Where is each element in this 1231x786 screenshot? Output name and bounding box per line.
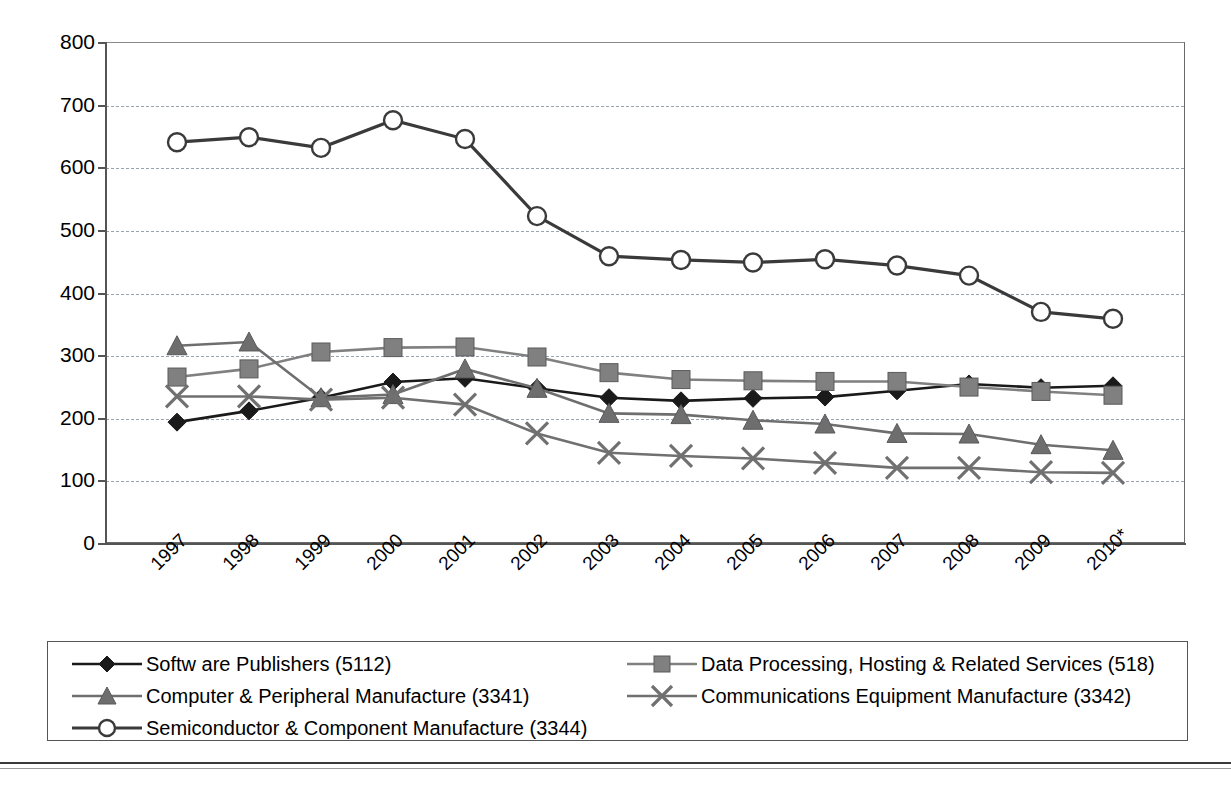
y-axis-tick-label: 100 [20, 469, 95, 490]
chart-page: 0100200300400500600700800 19971998199920… [0, 0, 1231, 786]
legend-item[interactable]: Softw are Publishers (5112) [68, 648, 587, 680]
legend-item[interactable]: Communications Equipment Manufacture (33… [623, 680, 1155, 712]
y-axis-tick [98, 355, 106, 357]
gridlines [106, 43, 1184, 542]
legend-column: Data Processing, Hosting & Related Servi… [623, 648, 1155, 712]
y-axis-tick-label: 0 [20, 532, 95, 553]
y-axis-tick [98, 418, 106, 420]
y-axis-tick-label: 600 [20, 156, 95, 177]
gridline [106, 356, 1184, 357]
gridline [106, 481, 1184, 482]
chart-legend: Softw are Publishers (5112)Computer & Pe… [47, 641, 1188, 741]
y-axis-tick [98, 105, 106, 107]
gridline [106, 106, 1184, 107]
y-axis-tick-label: 400 [20, 282, 95, 303]
legend-diamond-icon [68, 650, 146, 678]
gridline [106, 294, 1184, 295]
gridline [106, 419, 1184, 420]
legend-item-label: Communications Equipment Manufacture (33… [701, 686, 1131, 706]
y-axis-tick-label: 500 [20, 219, 95, 240]
legend-triangle-icon [68, 682, 146, 710]
legend-square-icon [623, 650, 701, 678]
page-divider-secondary [0, 768, 1231, 769]
legend-item[interactable]: Semiconductor & Component Manufacture (3… [68, 712, 587, 744]
legend-item-label: Softw are Publishers (5112) [146, 654, 391, 674]
y-axis-tick [98, 167, 106, 169]
legend-item-label: Semiconductor & Component Manufacture (3… [146, 718, 587, 738]
legend-cross-icon [623, 682, 701, 710]
y-axis-tick [98, 480, 106, 482]
y-axis-tick [98, 230, 106, 232]
y-axis-tick-label: 700 [20, 94, 95, 115]
legend-item-label: Data Processing, Hosting & Related Servi… [701, 654, 1155, 674]
y-axis-tick-label: 200 [20, 407, 95, 428]
legend-item-label: Computer & Peripheral Manufacture (3341) [146, 686, 530, 706]
y-axis-tick-label: 300 [20, 344, 95, 365]
legend-column: Softw are Publishers (5112)Computer & Pe… [68, 648, 587, 744]
gridline [106, 231, 1184, 232]
legend-item[interactable]: Data Processing, Hosting & Related Servi… [623, 648, 1155, 680]
y-axis-tick-label: 800 [20, 31, 95, 52]
gridline [106, 168, 1184, 169]
y-axis-tick [98, 42, 106, 44]
legend-item[interactable]: Computer & Peripheral Manufacture (3341) [68, 680, 587, 712]
y-axis-tick [98, 293, 106, 295]
legend-circle-icon [68, 714, 146, 742]
plot-area [105, 42, 1185, 543]
page-divider [0, 762, 1231, 764]
